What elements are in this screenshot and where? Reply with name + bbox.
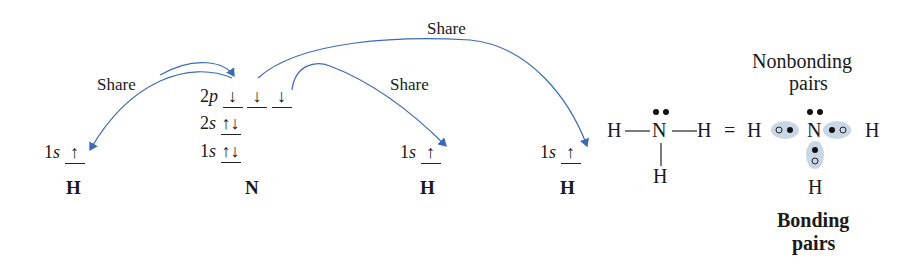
n-1s-name: 1s <box>200 141 216 161</box>
n-1s-slot: ↑↓ <box>221 142 241 163</box>
h2-atom-label: H <box>420 177 435 199</box>
n-orbital-2s: 2s ↑↓ <box>200 113 241 135</box>
n-2s-slot: ↑↓ <box>221 114 241 135</box>
share-label-3: Share <box>390 75 429 95</box>
lewis-h-left: H <box>607 119 621 142</box>
h1-orbital-name: 1s <box>44 142 60 162</box>
nonbonding-label-line1: Nonbonding <box>752 50 852 73</box>
h1-atom-label: H <box>66 177 81 199</box>
n-2p-slot-1: ↓ <box>223 87 243 108</box>
dot-n: N <box>807 119 821 142</box>
bonding-label-line2: pairs <box>792 232 835 255</box>
share-label-1: Share <box>97 75 136 95</box>
lewis-h-bottom: H <box>653 165 667 188</box>
dot-h-bottom: H <box>808 176 822 199</box>
n-orbital-1s: 1s ↑↓ <box>200 141 241 163</box>
n-2p-slot-2: ↓ <box>247 87 267 108</box>
equals-sign: = <box>724 119 735 142</box>
n-orbital-2p: 2p ↓ ↓ ↓ <box>200 86 292 108</box>
share-arrows <box>0 0 922 274</box>
h1-orbital: 1s ↑ <box>44 142 85 164</box>
h3-atom-label: H <box>560 177 575 199</box>
h3-orbital: 1s ↑ <box>540 142 581 164</box>
bonding-pair-bottom-highlight <box>806 141 824 169</box>
n-2p-name: 2p <box>200 86 218 106</box>
n-2p-slot-3: ↓ <box>272 87 292 108</box>
h3-orbital-name: 1s <box>540 142 556 162</box>
n-atom-label: N <box>245 177 259 199</box>
lewis-n: N <box>652 119 666 142</box>
h2-spin-up: ↑ <box>421 143 441 164</box>
h2-orbital: 1s ↑ <box>400 142 441 164</box>
dot-h-left: H <box>747 119 761 142</box>
h3-spin-up: ↑ <box>561 143 581 164</box>
bonding-pair-left-highlight <box>771 121 799 139</box>
bonding-label-line1: Bonding <box>777 209 849 232</box>
n-2s-name: 2s <box>200 113 216 133</box>
lewis-h-right: H <box>697 119 711 142</box>
dot-h-right: H <box>865 119 879 142</box>
bonding-pair-right-highlight <box>823 121 851 139</box>
h2-orbital-name: 1s <box>400 142 416 162</box>
nonbonding-label-line2: pairs <box>789 72 828 95</box>
h1-spin-up: ↑ <box>65 143 85 164</box>
share-label-2: Share <box>427 19 466 39</box>
